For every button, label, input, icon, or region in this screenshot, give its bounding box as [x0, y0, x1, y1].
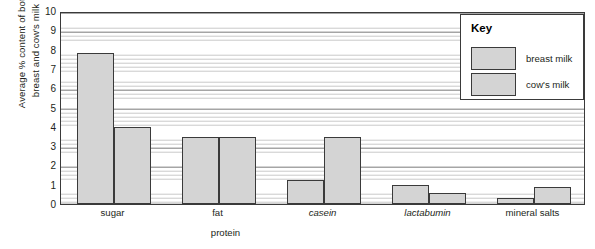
- bar-sugar-cow-s-milk: [114, 127, 151, 204]
- y-axis-tick-7: 7: [22, 65, 56, 75]
- x-axis-tick-sugar: sugar: [60, 207, 165, 219]
- y-axis-tick-labels: 109876543210: [20, 0, 56, 249]
- x-axis-tick-mineral-salts: mineral salts: [480, 207, 585, 219]
- y-axis-tick-2: 2: [22, 161, 56, 171]
- y-axis-tick-4: 4: [22, 123, 56, 133]
- y-axis-tick-8: 8: [22, 46, 56, 56]
- x-axis-tick-casein: casein: [270, 207, 375, 219]
- y-axis-tick-3: 3: [22, 142, 56, 152]
- legend-key-box: Key breast milk cow's milk: [460, 14, 584, 100]
- bar-lactabumin-breast-milk: [392, 185, 429, 204]
- bar-fat-cow-s-milk: [219, 137, 256, 204]
- x-axis-tick-lactabumin: lactabumin: [375, 207, 480, 219]
- y-axis-tick-6: 6: [22, 84, 56, 94]
- x-axis-tick-labels: sugarfatcaseinlactabuminmineral salts: [60, 207, 585, 223]
- x-axis-tick-fat: fat: [165, 207, 270, 219]
- y-axis-tick-5: 5: [22, 104, 56, 114]
- bar-fat-breast-milk: [182, 137, 219, 204]
- y-axis-tick-10: 10: [22, 7, 56, 17]
- legend-swatch-cows-milk: [471, 73, 516, 96]
- bar-casein-cow-s-milk: [324, 137, 361, 204]
- y-axis-tick-0: 0: [22, 200, 56, 210]
- bar-casein-breast-milk: [287, 180, 324, 204]
- y-axis-tick-9: 9: [22, 26, 56, 36]
- legend-label-cows-milk: cow's milk: [526, 78, 569, 91]
- legend-label-breast-milk: breast milk: [526, 52, 572, 65]
- legend-swatch-breast-milk: [471, 47, 516, 70]
- bar-mineral-salts-breast-milk: [497, 198, 534, 204]
- legend-title: Key: [471, 21, 492, 35]
- x-axis-title-text: protein: [211, 227, 240, 238]
- bar-chart-figure: Average % content of both breast and cow…: [0, 0, 595, 249]
- y-axis-tick-1: 1: [22, 181, 56, 191]
- x-axis-title: protein: [60, 227, 585, 239]
- bar-sugar-breast-milk: [77, 53, 114, 204]
- bar-lactabumin-cow-s-milk: [429, 193, 466, 204]
- bar-mineral-salts-cow-s-milk: [534, 187, 571, 204]
